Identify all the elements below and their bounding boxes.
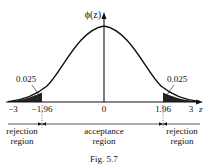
x-axis-label: z xyxy=(198,104,203,114)
left-boundary-arrow-right-icon xyxy=(42,122,46,125)
center-region-label-line2: region xyxy=(93,136,116,146)
y-axis-label: ϕ(z) xyxy=(85,9,101,21)
tick-label-0: 0 xyxy=(102,104,107,114)
right-region-label-line1: rejection xyxy=(166,126,198,136)
right-boundary-arrow-left-icon xyxy=(159,122,163,125)
figure-caption: Fig. 5.7 xyxy=(90,154,118,164)
center-region-label-line1: acceptance xyxy=(84,126,123,136)
normal-distribution-figure: ϕ(z) 0.025 0.025 −3 −1.96 0 1.96 3 z rej… xyxy=(0,0,207,167)
right-region-label-line2: region xyxy=(171,136,194,146)
tick-label-neg3: −3 xyxy=(8,104,18,114)
left-region-label-line2: region xyxy=(11,136,34,146)
right-tail-area-label: 0.025 xyxy=(167,74,188,84)
y-axis-arrow-icon xyxy=(102,12,107,19)
left-tail-area-label: 0.025 xyxy=(16,74,37,84)
left-boundary-arrow-left-icon xyxy=(38,122,42,125)
left-region-label-line1: rejection xyxy=(6,126,38,136)
tick-label-3: 3 xyxy=(189,104,194,114)
